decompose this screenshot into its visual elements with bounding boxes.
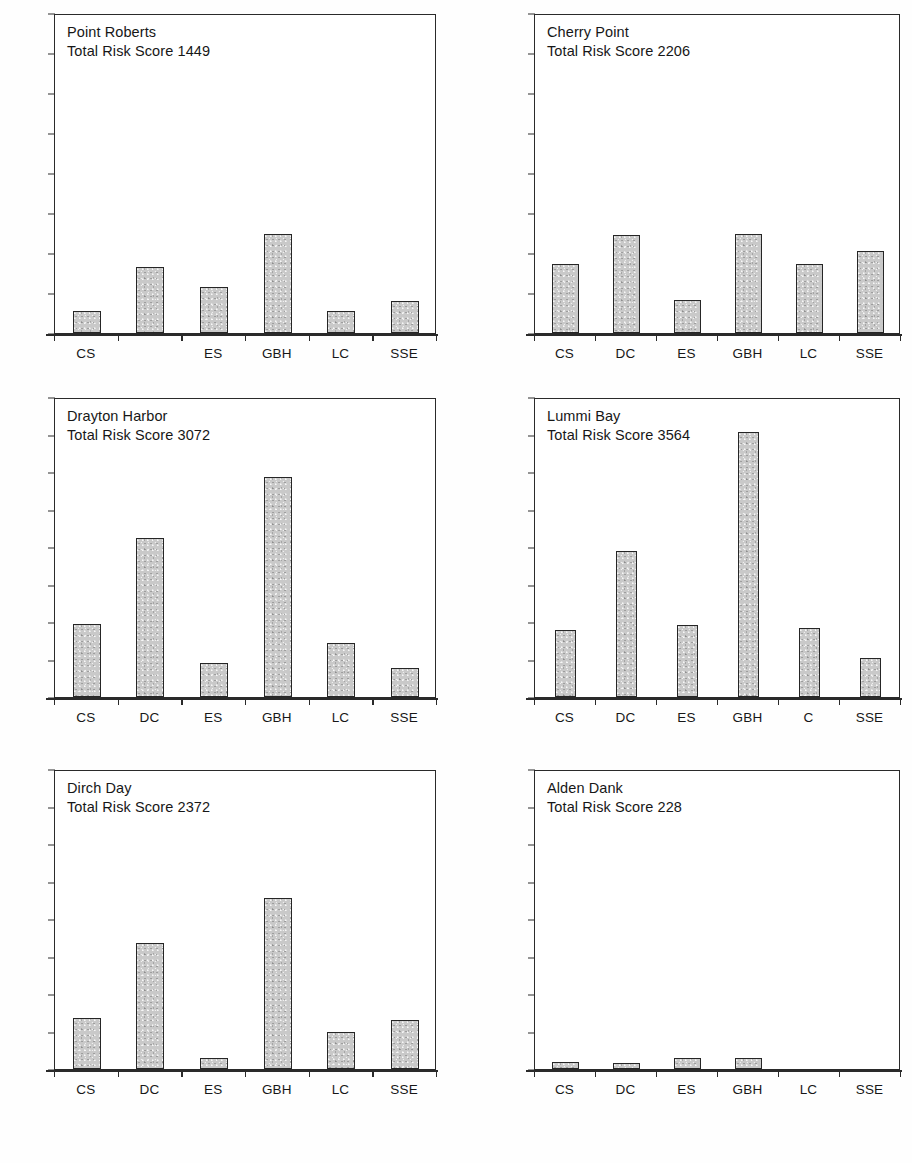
bar <box>264 898 292 1069</box>
chart-title-location: Dirch Day <box>67 779 210 798</box>
x-axis-tick <box>534 1071 535 1077</box>
bar <box>735 234 762 333</box>
x-axis-line <box>46 698 438 700</box>
x-axis-category-label: ES <box>677 1082 695 1097</box>
bar <box>796 264 823 333</box>
chart-panel: 02004006008001000120014001600Point Rober… <box>0 0 456 388</box>
chart-title: Alden DankTotal Risk Score 228 <box>547 779 682 817</box>
y-axis: 02004006008001000120014001600 <box>0 0 44 388</box>
plot-area: 02004006008001000120014001600Point Rober… <box>0 0 456 388</box>
x-axis-category-label: GBH <box>733 710 763 725</box>
x-axis-tick <box>656 699 657 705</box>
plot-area: Lummi BayTotal Risk Score 3564CSDCESGBHC… <box>456 388 912 758</box>
bar <box>674 1058 701 1069</box>
x-axis-category-label: LC <box>332 710 350 725</box>
x-axis-category-label: GBH <box>733 1082 763 1097</box>
x-axis-tick <box>245 1071 246 1077</box>
x-axis-tick <box>436 1071 437 1077</box>
x-axis-tick <box>54 1071 55 1077</box>
x-axis-tick <box>372 1071 373 1077</box>
plot-frame: Drayton HarborTotal Risk Score 3072 <box>54 398 436 698</box>
chart-title-location: Alden Dank <box>547 779 682 798</box>
x-axis-tick <box>245 699 246 705</box>
bar <box>613 1063 640 1069</box>
x-axis-tick <box>436 699 437 705</box>
bar <box>327 311 355 333</box>
plot-frame: Dirch DayTotal Risk Score 2372 <box>54 770 436 1070</box>
x-axis-category-label: ES <box>677 346 695 361</box>
x-axis-tick <box>656 335 657 341</box>
x-axis-category-label: LC <box>332 1082 350 1097</box>
chart-title: Point RobertsTotal Risk Score 1449 <box>67 23 210 61</box>
plot-area: Cherry PointTotal Risk Score 2206CSDCESG… <box>456 0 912 388</box>
bar <box>391 668 419 697</box>
x-axis-category-label: DC <box>616 710 636 725</box>
plot-area: 02004006008001000120014UU1600Dirch DayTo… <box>0 758 456 1163</box>
x-axis-category-label: DC <box>616 346 636 361</box>
y-axis <box>456 0 524 388</box>
x-axis-tick <box>595 1071 596 1077</box>
bar <box>73 624 101 697</box>
x-axis-category-label: CS <box>555 346 574 361</box>
x-axis-category-label: DC <box>616 1082 636 1097</box>
x-axis-tick <box>778 699 779 705</box>
x-axis-category-label: ES <box>677 710 695 725</box>
chart-title-location: Point Roberts <box>67 23 210 42</box>
x-axis-tick <box>717 699 718 705</box>
y-axis <box>456 758 524 1163</box>
x-axis-tick <box>778 1071 779 1077</box>
x-axis-category-label: SSE <box>856 1082 884 1097</box>
x-axis-tick <box>118 335 119 341</box>
x-axis-category-label: CS <box>76 1082 95 1097</box>
chart-title-score: Total Risk Score 228 <box>547 798 682 817</box>
x-axis-tick <box>309 699 310 705</box>
bar <box>857 251 884 333</box>
y-axis: 02004006008001000120014001600 <box>0 388 44 758</box>
x-axis-tick <box>534 699 535 705</box>
x-axis-category-label: LC <box>332 346 350 361</box>
x-axis-tick <box>900 335 901 341</box>
chart-title-score: Total Risk Score 3072 <box>67 426 210 445</box>
x-axis-tick <box>717 335 718 341</box>
y-axis <box>456 388 524 758</box>
x-axis-tick <box>595 699 596 705</box>
bar <box>136 538 164 697</box>
bar <box>327 1032 355 1070</box>
x-axis-tick <box>656 1071 657 1077</box>
chart-title-location: Cherry Point <box>547 23 690 42</box>
chart-panel: Cherry PointTotal Risk Score 2206CSDCESG… <box>456 0 912 388</box>
figure-page: 02004006008001000120014001600Point Rober… <box>0 0 912 1163</box>
chart-panel: Alden DankTotal Risk Score 228CSDCESGBHL… <box>456 758 912 1163</box>
plot-frame: Alden DankTotal Risk Score 228 <box>534 770 900 1070</box>
bar <box>799 628 821 697</box>
x-axis-category-label: ES <box>204 346 222 361</box>
x-axis-category-label: CS <box>76 346 95 361</box>
x-axis-tick <box>181 699 182 705</box>
chart-title-location: Drayton Harbor <box>67 407 210 426</box>
x-axis-category-label: LC <box>800 346 818 361</box>
y-axis: 02004006008001000120014UU1600 <box>0 758 44 1163</box>
x-axis-tick <box>595 335 596 341</box>
x-axis-line <box>526 698 902 700</box>
plot-frame: Point RobertsTotal Risk Score 1449 <box>54 14 436 334</box>
x-axis-line <box>46 1070 438 1072</box>
x-axis-tick <box>534 335 535 341</box>
bar <box>200 287 228 333</box>
chart-title-score: Total Risk Score 2372 <box>67 798 210 817</box>
x-axis-category-label: SSE <box>856 710 884 725</box>
x-axis-category-label: SSE <box>390 710 418 725</box>
bar <box>552 1062 579 1070</box>
bar <box>200 1058 228 1069</box>
bar <box>674 300 701 333</box>
x-axis-tick <box>309 1071 310 1077</box>
chart-title: Drayton HarborTotal Risk Score 3072 <box>67 407 210 445</box>
bar <box>613 235 640 333</box>
x-axis-category-label: ES <box>204 1082 222 1097</box>
plot-area: 02004006008001000120014001600Drayton Har… <box>0 388 456 758</box>
x-axis-line <box>46 334 438 336</box>
x-axis-category-label: SSE <box>390 346 418 361</box>
x-axis-category-label: CS <box>555 1082 574 1097</box>
x-axis-tick <box>181 1071 182 1077</box>
chart-title-score: Total Risk Score 2206 <box>547 42 690 61</box>
bar <box>73 1018 101 1069</box>
